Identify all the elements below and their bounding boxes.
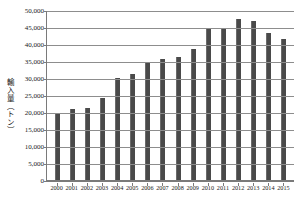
y-axis-tick-label: 15,000 — [25, 127, 44, 134]
bar[interactable] — [160, 59, 165, 180]
x-axis-tick-label: 2015 — [276, 183, 291, 199]
x-axis-tick-mark — [238, 183, 239, 186]
x-axis-tick-mark — [268, 183, 269, 186]
bar[interactable] — [206, 29, 211, 180]
gridline — [47, 164, 294, 165]
x-axis-tick-label: 2002 — [79, 183, 94, 199]
gridline — [47, 28, 294, 29]
gridline — [47, 79, 294, 80]
x-axis-tick-label: 2003 — [94, 183, 109, 199]
gridline — [47, 130, 294, 131]
x-axis-tick-label: 2007 — [155, 183, 170, 199]
gridline — [47, 11, 294, 12]
x-axis-tick-label: 2008 — [170, 183, 185, 199]
y-axis-tick-mark — [44, 96, 47, 97]
x-axis-tick-mark — [132, 183, 133, 186]
gridline — [47, 62, 294, 63]
gridline — [47, 147, 294, 148]
x-axis-tick-mark — [162, 183, 163, 186]
y-axis-tick-label: 40,000 — [25, 42, 44, 49]
y-axis-tick-mark — [44, 28, 47, 29]
x-axis-tick-mark — [208, 183, 209, 186]
x-axis-tick-mark — [223, 183, 224, 186]
bar[interactable] — [266, 33, 271, 180]
y-axis-tick-label: 30,000 — [25, 76, 44, 83]
bar[interactable] — [191, 49, 196, 180]
y-axis-tick-mark — [44, 79, 47, 80]
y-axis-tick-label: 45,000 — [25, 25, 44, 32]
x-axis-tick-label: 2006 — [140, 183, 155, 199]
x-axis-tick-mark — [72, 183, 73, 186]
x-axis-tick-label: 2005 — [125, 183, 140, 199]
bar[interactable] — [176, 57, 181, 180]
x-axis-tick-mark — [193, 183, 194, 186]
gridline — [47, 113, 294, 114]
gridline — [47, 45, 294, 46]
y-axis-tick-mark — [44, 181, 47, 182]
y-axis-tick-mark — [44, 164, 47, 165]
y-axis-tick-label: 25,000 — [25, 93, 44, 100]
x-axis-tick-label: 2001 — [64, 183, 79, 199]
x-axis-tick-mark — [253, 183, 254, 186]
bar[interactable] — [70, 109, 75, 180]
x-axis-tick-label: 2010 — [200, 183, 215, 199]
bar[interactable] — [236, 19, 241, 180]
y-axis-tick-label: 50,000 — [25, 8, 44, 15]
y-axis-tick-mark — [44, 113, 47, 114]
y-axis-tick-label: 35,000 — [25, 59, 44, 66]
bar[interactable] — [281, 39, 286, 180]
x-axis-tick-mark — [102, 183, 103, 186]
bar[interactable] — [221, 29, 226, 180]
y-axis-tick-mark — [44, 147, 47, 148]
y-axis-tick-label: 10,000 — [25, 144, 44, 151]
x-axis-tick-mark — [147, 183, 148, 186]
x-axis-tick-mark — [117, 183, 118, 186]
y-axis-tick-label: 5,000 — [28, 161, 44, 168]
x-axis-tick-label: 2012 — [231, 183, 246, 199]
x-axis-tick-mark — [87, 183, 88, 186]
y-axis-tick-mark — [44, 11, 47, 12]
y-axis-tick-mark — [44, 45, 47, 46]
plot-area — [46, 11, 294, 181]
bar[interactable] — [145, 63, 150, 180]
gridline — [47, 96, 294, 97]
y-axis-tick-mark — [44, 130, 47, 131]
gridline — [47, 181, 294, 182]
x-axis-tick-label: 2009 — [185, 183, 200, 199]
y-axis-tick-mark — [44, 62, 47, 63]
x-axis-tick-label: 2013 — [246, 183, 261, 199]
x-axis-tick-label: 2014 — [261, 183, 276, 199]
y-axis-tick-label: 20,000 — [25, 110, 44, 117]
x-axis-tick-mark — [57, 183, 58, 186]
x-axis-tick-label: 2000 — [49, 183, 64, 199]
y-axis-tick-labels: 05,00010,00015,00020,00025,00030,00035,0… — [12, 0, 46, 185]
bar[interactable] — [85, 108, 90, 180]
x-axis-tick-label: 2004 — [110, 183, 125, 199]
x-axis-tick-labels: 2000200120022003200420052006200720082009… — [46, 183, 294, 199]
bar-chart: 輸入量（トン） 05,00010,00015,00020,00025,00030… — [0, 0, 297, 204]
bar[interactable] — [100, 98, 105, 180]
x-axis-tick-label: 2011 — [215, 183, 230, 199]
x-axis-tick-mark — [178, 183, 179, 186]
x-axis-tick-mark — [283, 183, 284, 186]
